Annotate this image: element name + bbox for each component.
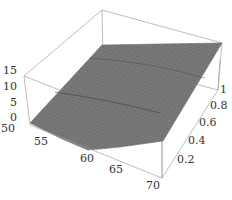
z-tick-label: 5: [10, 97, 17, 108]
y-tick-label: 0.8: [210, 100, 228, 111]
y-tick-label: 0.2: [177, 154, 195, 165]
x-tick-label: 70: [146, 180, 160, 191]
y-tick-label: 0.6: [199, 117, 217, 128]
box-edge-vertical-front-left: [24, 76, 30, 125]
x-tick-label: 60: [80, 153, 94, 164]
x-tick-label: 55: [34, 136, 48, 147]
x-tick-label: 65: [109, 164, 123, 175]
box-edge-top-back: [102, 10, 222, 43]
z-tick-label: 10: [3, 81, 17, 92]
y-tick-label: 0.4: [188, 135, 206, 146]
z-tick-label: 15: [3, 65, 17, 76]
y-tick-label: 1: [220, 84, 227, 95]
x-tick-label: 50: [1, 123, 15, 134]
